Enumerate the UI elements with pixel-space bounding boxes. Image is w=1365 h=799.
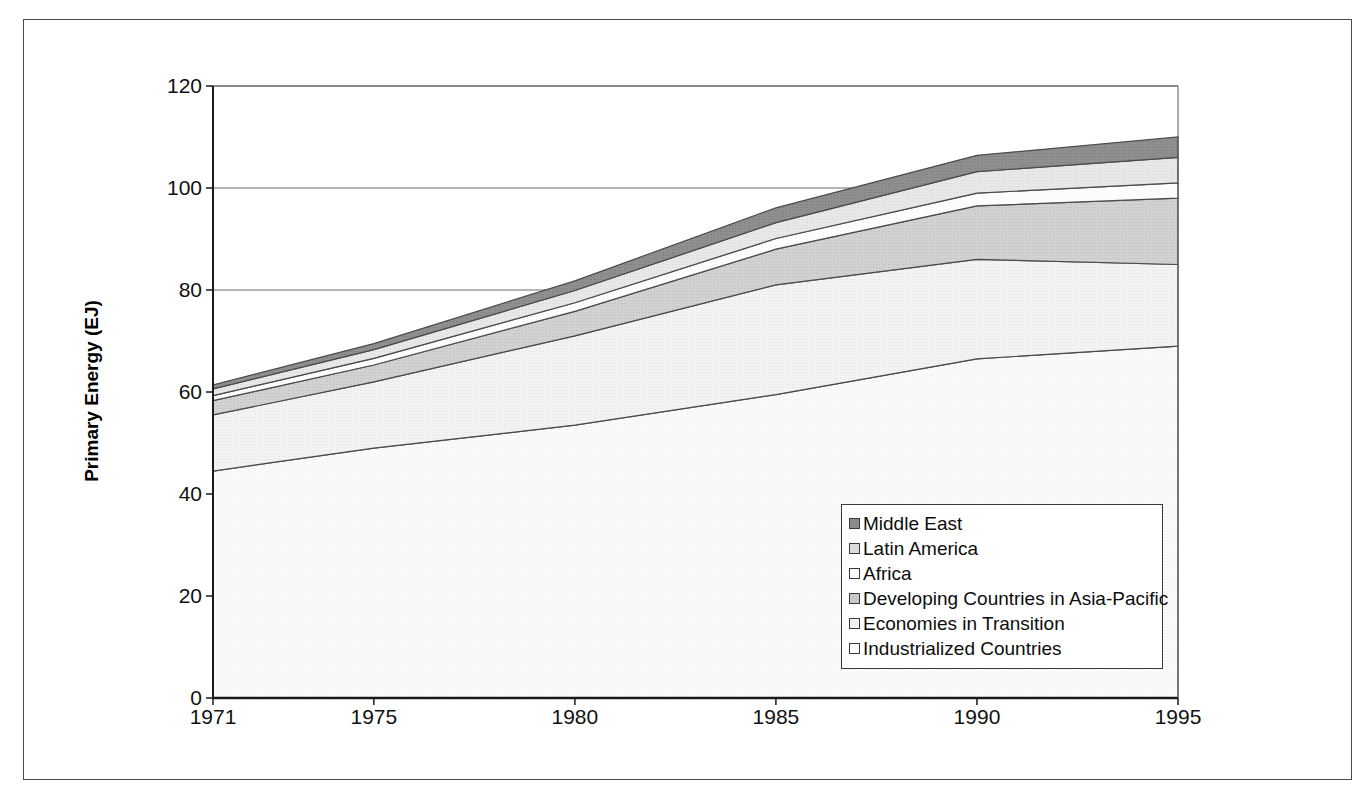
legend-swatch-icon [849,643,860,654]
legend-swatch-icon [849,618,860,629]
y-tick-label: 120 [150,75,202,96]
chart-legend: Middle East Latin America Africa Develop… [841,504,1163,669]
x-tick-label: 1995 [1133,706,1223,727]
legend-item[interactable]: Africa [849,561,1155,586]
x-tick-label: 1971 [168,706,258,727]
x-tick-label: 1990 [932,706,1022,727]
legend-item[interactable]: Developing Countries in Asia-Pacific [849,586,1155,611]
legend-swatch-icon [849,568,860,579]
y-axis-title: Primary Energy (EJ) [81,261,103,521]
legend-item-label: Developing Countries in Asia-Pacific [863,589,1168,608]
legend-swatch-icon [849,593,860,604]
y-tick-label: 60 [150,381,202,402]
legend-item[interactable]: Middle East [849,511,1155,536]
legend-item[interactable]: Industrialized Countries [849,636,1155,661]
legend-item[interactable]: Latin America [849,536,1155,561]
legend-item[interactable]: Economies in Transition [849,611,1155,636]
y-tick-label: 20 [150,585,202,606]
legend-item-label: Middle East [863,514,962,533]
x-tick-label: 1975 [329,706,419,727]
legend-swatch-icon [849,518,860,529]
legend-swatch-icon [849,543,860,554]
x-tick-label: 1985 [731,706,821,727]
x-tick-label: 1980 [530,706,620,727]
legend-item-label: Latin America [863,539,978,558]
stacked-area-plot [0,0,1365,799]
y-tick-label: 40 [150,483,202,504]
y-tick-label: 100 [150,177,202,198]
y-tick-label: 80 [150,279,202,300]
legend-item-label: Economies in Transition [863,614,1065,633]
legend-item-label: Industrialized Countries [863,639,1062,658]
chart-root: Primary Energy (EJ) 020406080100120 1971… [0,0,1365,799]
legend-item-label: Africa [863,564,912,583]
